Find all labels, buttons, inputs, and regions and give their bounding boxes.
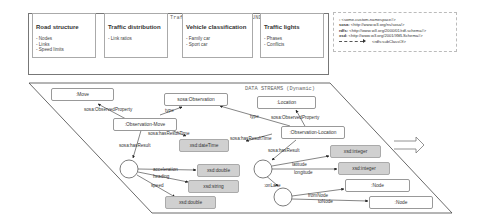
- edge-label-from-node: fromNode: [308, 193, 328, 198]
- edge-label-heading: heading: [153, 174, 169, 179]
- hollow-arrow-icon: [394, 137, 424, 153]
- edge-label-type-move: type: [165, 108, 174, 113]
- node-sosa-observation: sosa:Observation: [164, 93, 228, 106]
- edge-label-has-result-time-move: sosa:hasResultTime: [148, 131, 189, 136]
- data-streams-title: DATA STREAMS (Dynamic): [245, 86, 315, 92]
- edge-label-on-lane: :onLane: [264, 183, 281, 188]
- edge-label-has-result-time-location: sosa:hasResultTime: [230, 136, 271, 141]
- edge-label-latitude: latitude: [292, 162, 307, 167]
- node-to-node: :Node: [369, 196, 433, 209]
- node-move: :Move: [51, 88, 114, 101]
- literal-datetime: xsd:dateTime: [179, 139, 229, 152]
- edge-label-observed-property-location: sosa:ObservedProperty: [271, 115, 319, 120]
- literal-integer-longitude: xsd:integer: [338, 162, 390, 175]
- edge-label-speed: speed: [151, 183, 164, 188]
- literal-integer-latitude: xsd:integer: [330, 145, 381, 158]
- node-observation-location: :Observation-Location: [281, 126, 345, 139]
- blank-node-move: [120, 160, 138, 178]
- literal-double-acceleration: xsd:double: [197, 164, 240, 177]
- blank-node-location: [254, 160, 272, 178]
- edge-label-has-result-location: sosa:hasResult: [268, 148, 299, 153]
- edge-label-longitude: longitude: [294, 170, 313, 175]
- literal-string-heading: xsd:string: [188, 180, 239, 193]
- data-streams-frame: [29, 83, 452, 213]
- edge-label-type-location: type: [250, 114, 259, 119]
- edge-label-acceleration: acceleration: [153, 167, 178, 172]
- node-observation-move: :Observation-Move: [113, 118, 177, 131]
- edge-label-observed-property-move: sosa:ObservedProperty: [84, 107, 132, 112]
- literal-double-speed: xsd:double: [165, 196, 216, 209]
- edge-label-has-result-move: sosa:hasResult: [119, 143, 150, 148]
- blank-node-lane: [274, 188, 292, 206]
- edge-label-to-node: toNode: [318, 199, 333, 204]
- node-location: :Location: [257, 96, 316, 109]
- node-from-node: :Node: [345, 179, 410, 192]
